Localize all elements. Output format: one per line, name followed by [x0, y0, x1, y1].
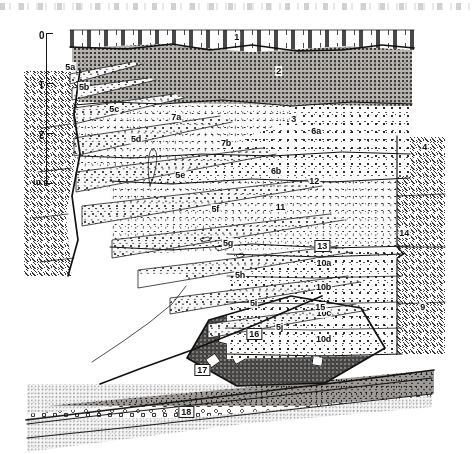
unit-label-5c: 5c — [108, 104, 120, 114]
unit-label-14: 14 — [398, 228, 410, 238]
unit-label-5j: 5j — [275, 322, 284, 332]
unit-label-6b: 6b — [270, 166, 282, 176]
unit-label-5e: 5e — [174, 170, 186, 180]
unit-label-1: 1 — [233, 32, 240, 42]
figure-canvas: 1 2 3 4 5a 5b 5c 5d 5e 5f 5g 5h 5i 5j 6a… — [0, 0, 472, 454]
unit-label-13: 13 — [314, 240, 330, 252]
unit-label-5d: 5d — [130, 134, 142, 144]
unit-label-11: 11 — [275, 202, 286, 212]
scale-bar-spine — [46, 33, 47, 185]
unit-label-10d: 10d — [315, 334, 332, 344]
unit-label-2: 2 — [275, 66, 282, 76]
unit-label-12: 12 — [308, 176, 320, 186]
unit-label-15: 15 — [314, 302, 326, 312]
scale-label-0: 0 — [39, 29, 45, 39]
unit-9-body — [397, 246, 445, 354]
scale-bar-tick-0 — [46, 33, 53, 34]
unit-label-5f: 5f — [210, 204, 220, 214]
unit-label-17: 17 — [194, 364, 210, 376]
scale-bar-tick-1 — [46, 83, 53, 84]
unit-label-5h: 5h — [234, 270, 246, 280]
unit-label-4: 4 — [421, 142, 428, 152]
unit-label-3: 3 — [290, 114, 297, 124]
scale-bar: 0 1 2 3 m — [24, 33, 58, 185]
unit-label-5i: 5i — [249, 298, 258, 308]
unit-label-5a: 5a — [64, 62, 76, 72]
unit-label-10a: 10a — [316, 258, 332, 268]
unit-label-6a: 6a — [310, 126, 322, 136]
unit-label-5g: 5g — [222, 238, 234, 248]
unit-label-7b: 7b — [220, 138, 232, 148]
scale-label-3m: 3 m — [33, 178, 49, 188]
scale-label-2: 2 — [39, 129, 45, 139]
unit-label-16: 16 — [246, 328, 262, 340]
scale-label-1: 1 — [39, 79, 45, 89]
unit-label-18: 18 — [178, 406, 194, 418]
unit-label-5b: 5b — [78, 82, 90, 92]
unit-label-7a: 7a — [170, 112, 182, 122]
scale-bar-tick-2 — [46, 133, 53, 134]
unit-label-9: 9 — [419, 302, 426, 312]
unit-2-body — [72, 44, 412, 106]
unit-15-body — [76, 274, 186, 366]
unit-label-10b: 10b — [315, 282, 332, 292]
cross-section-plate: 1 2 3 4 5a 5b 5c 5d 5e 5f 5g 5h 5i 5j 6a… — [0, 0, 472, 454]
